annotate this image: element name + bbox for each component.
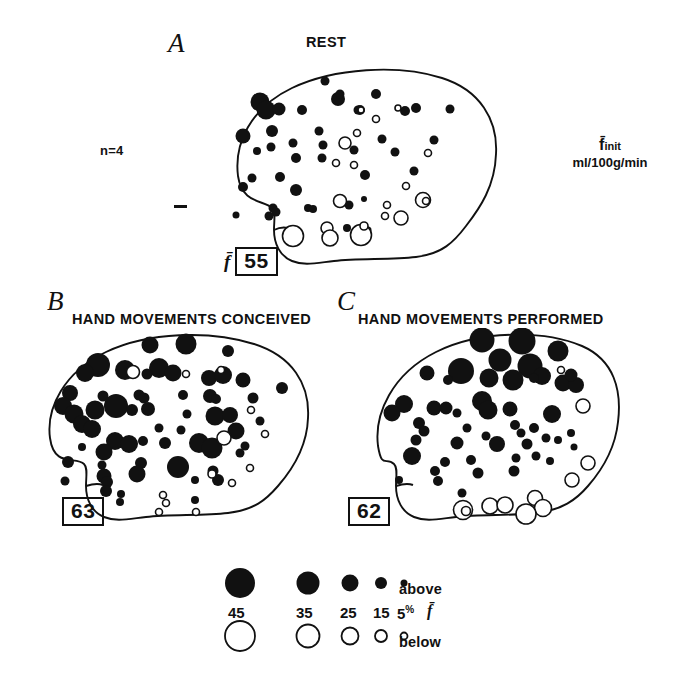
legend-mean-symbol: f̄ [427,602,432,620]
legend-marker-above-45 [225,568,255,598]
legend-markers [0,0,684,690]
legend-size-15: 15 [373,604,390,621]
legend-marker-below-15 [375,630,387,642]
legend-marker-above-35 [297,572,320,595]
legend-percent-sign: % [405,604,414,615]
legend-marker-above-15 [375,577,387,589]
figure-root: A REST n=4 f̄init ml/100g/min f̄ 55 B HA… [0,0,684,690]
legend-below-label: below [399,634,441,650]
legend-size-45: 45 [228,604,245,621]
legend-marker-below-25 [342,628,359,645]
legend-marker-above-25 [342,575,359,592]
legend-above-label: above [399,581,442,597]
legend-size-5: 5% [397,604,414,622]
legend-marker-below-45 [225,621,255,651]
legend: above below 45 35 25 15 5% f̄ [0,0,684,690]
legend-size-25: 25 [340,604,357,621]
figure-caption-cut [0,676,684,690]
legend-marker-below-35 [297,625,320,648]
legend-size-35: 35 [296,604,313,621]
